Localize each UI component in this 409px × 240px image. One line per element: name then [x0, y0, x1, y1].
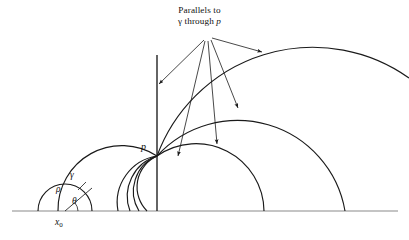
geodesic-through-p-steep-4 [137, 156, 157, 211]
geodesic-through-p-right-small [157, 144, 264, 211]
x0-label: x0 [55, 217, 63, 229]
callout-label: Parallels toγ through p [178, 5, 221, 27]
gamma-label: γ [70, 170, 74, 181]
callout-arrow-to-steep-arc [178, 41, 205, 156]
callout-arrow-to-large-right-arc [212, 38, 262, 52]
callout-line-1: Parallels to [178, 5, 220, 15]
diagram-svg [0, 0, 409, 240]
callout-line-2-italic-p: p [216, 16, 221, 26]
gamma-pointer-tick [78, 182, 86, 190]
callout-arrow-to-small-right-arc [208, 41, 217, 144]
theta-label: θ [72, 196, 77, 207]
geodesic-through-p-right-medium [157, 120, 345, 211]
point-p-label: p [141, 141, 146, 153]
rho-radius-line [65, 188, 92, 211]
callout-arrow-to-vertical-geodesic [159, 40, 204, 84]
figure-canvas: Parallels toγ through p p γ ρ θ x0 [0, 0, 409, 240]
geodesic-through-p-steep-2 [127, 156, 157, 211]
geodesic-through-p-right-large [157, 47, 409, 156]
callout-line-2-prefix: γ through [178, 16, 216, 26]
rho-label: ρ [56, 184, 61, 195]
x0-subscript: 0 [59, 221, 63, 229]
callout-arrow-to-medium-right-arc [211, 40, 238, 108]
gamma-semicircle [38, 184, 92, 211]
